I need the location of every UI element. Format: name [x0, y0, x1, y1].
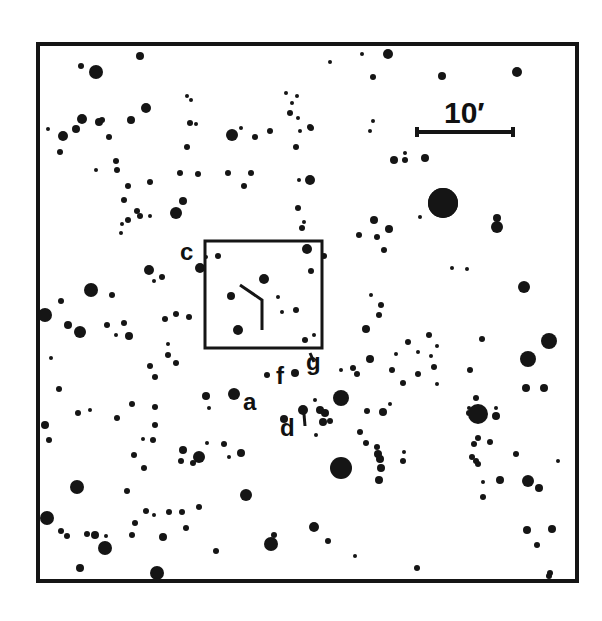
star [295, 94, 299, 98]
star [416, 350, 420, 354]
star [132, 520, 138, 526]
star [91, 531, 99, 539]
star [379, 408, 387, 416]
star [141, 465, 147, 471]
star [302, 337, 308, 343]
star [375, 476, 383, 484]
star [170, 207, 182, 219]
star [385, 225, 393, 233]
star [84, 531, 90, 537]
star [173, 311, 179, 317]
star [49, 356, 53, 360]
star [496, 476, 504, 484]
star [405, 339, 411, 345]
star [298, 129, 302, 133]
star [546, 573, 552, 579]
star [298, 405, 308, 415]
star [240, 489, 252, 501]
star [267, 128, 273, 134]
star [414, 565, 420, 571]
star [56, 386, 62, 392]
star [114, 415, 120, 421]
star [327, 418, 333, 424]
star [189, 98, 193, 102]
star [159, 533, 167, 541]
star [438, 72, 446, 80]
star [129, 401, 135, 407]
star [178, 458, 184, 464]
star [370, 74, 376, 80]
star [225, 170, 231, 176]
star [293, 307, 299, 313]
star [450, 266, 454, 270]
star [383, 49, 393, 59]
star [366, 355, 374, 363]
star [378, 302, 384, 308]
star [114, 167, 120, 173]
star [144, 265, 154, 275]
star [388, 402, 392, 406]
star [541, 333, 557, 349]
star [487, 439, 493, 445]
star [276, 295, 280, 299]
star [165, 352, 171, 358]
star [58, 131, 68, 141]
star [195, 171, 201, 177]
star [41, 421, 49, 429]
star [369, 293, 373, 297]
star [252, 134, 258, 140]
star [88, 408, 92, 412]
star [109, 292, 115, 298]
star [295, 205, 301, 211]
star [173, 360, 179, 366]
star [291, 369, 299, 377]
star [468, 404, 488, 424]
star [428, 188, 458, 218]
star [353, 554, 357, 558]
star [491, 221, 503, 233]
star [556, 459, 560, 463]
star [148, 214, 152, 218]
star [431, 364, 437, 370]
star [418, 215, 422, 219]
star [325, 538, 331, 544]
star [58, 298, 64, 304]
star [190, 460, 196, 466]
star [535, 484, 543, 492]
star [297, 178, 301, 182]
star [213, 548, 219, 554]
star [184, 144, 190, 150]
star [131, 452, 137, 458]
star [513, 451, 519, 457]
star [481, 480, 485, 484]
star [302, 220, 306, 224]
star [166, 342, 170, 346]
star [321, 409, 329, 417]
star [150, 437, 156, 443]
star [368, 129, 372, 133]
star [78, 63, 84, 69]
star [46, 127, 50, 131]
star [492, 412, 500, 420]
star [435, 382, 439, 386]
star [309, 522, 319, 532]
star-label-c: c [180, 240, 193, 264]
star [400, 458, 406, 464]
star [99, 117, 105, 123]
star [357, 429, 363, 435]
star [121, 197, 127, 203]
star [136, 52, 144, 60]
star [339, 368, 343, 372]
star [64, 321, 72, 329]
star [152, 513, 156, 517]
star [264, 537, 278, 551]
star [114, 333, 118, 337]
star [534, 542, 540, 548]
star [540, 384, 548, 392]
star [58, 528, 64, 534]
star [494, 406, 498, 410]
star [313, 398, 317, 402]
star [376, 312, 382, 318]
star [305, 175, 315, 185]
star [239, 126, 243, 130]
